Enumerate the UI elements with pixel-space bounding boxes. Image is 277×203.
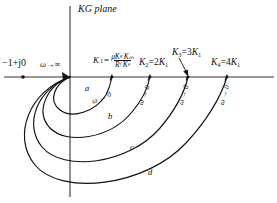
- k1-index: 1: [100, 58, 103, 64]
- nyquist-kg-plane-figure: KG plane −1+j0 ω→∞ K1= μKᵍ Kₘ Rᶠ Kᵍ K2=2…: [0, 0, 277, 203]
- gain-label-k4: K4=4K1: [211, 58, 240, 68]
- infinity-glyph: ∞: [55, 59, 61, 69]
- k1-fraction: μKᵍ Kₘ Rᶠ Kᵍ: [110, 53, 135, 69]
- k3-leader-arrow: [179, 58, 188, 75]
- gain-label-k3: K3=3K1: [172, 48, 201, 58]
- k2-ref-index: 1: [165, 61, 168, 68]
- k4-ref-index: 1: [237, 61, 240, 68]
- critical-point-label: −1+j0: [2, 58, 26, 68]
- k3-ref-index: 1: [198, 51, 201, 58]
- nyquist-curve-b: [43, 77, 150, 138]
- gain-label-k2: K2=2K1: [139, 58, 168, 68]
- nyquist-curves: [24, 77, 227, 183]
- critical-point-text: −1+j0: [2, 57, 26, 68]
- k1-base: K: [93, 56, 99, 65]
- omega-infinity-label: ω→∞: [40, 60, 61, 69]
- k1-denominator: Rᶠ Kᵍ: [114, 60, 131, 68]
- curve-label-c: c: [130, 143, 134, 152]
- critical-point-marker: [21, 75, 25, 79]
- curve-label-d: d: [148, 168, 152, 177]
- page-title: KG plane: [78, 4, 117, 14]
- gain-label-k1: K1= μKᵍ Kₘ Rᶠ Kᵍ: [93, 53, 135, 69]
- curve-label-b: b: [108, 112, 112, 121]
- k1-numerator: μKᵍ Kₘ: [110, 53, 135, 60]
- k1-equals: =: [104, 56, 109, 65]
- arrow-glyph: →: [46, 59, 55, 69]
- curve-label-a: a: [85, 84, 89, 93]
